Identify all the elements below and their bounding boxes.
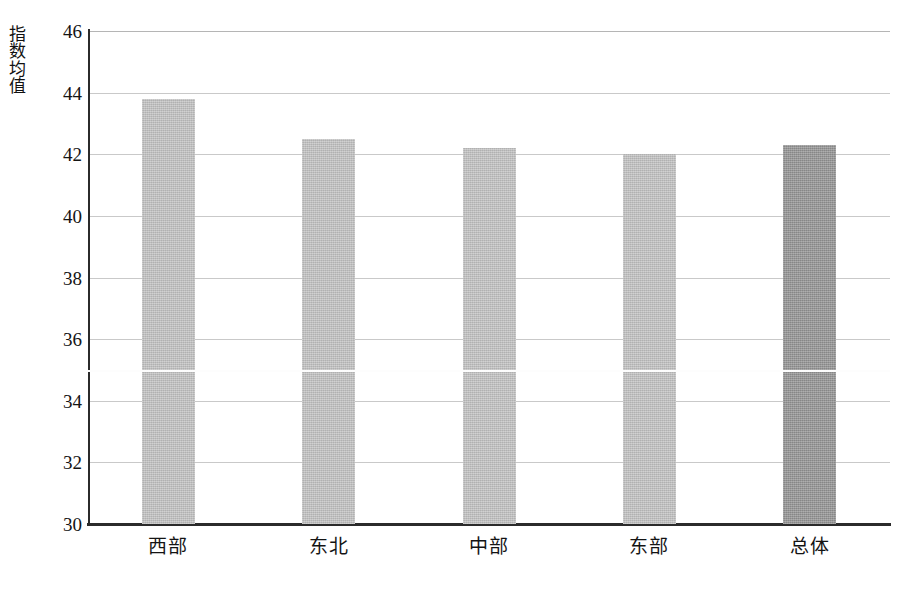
y-tick-label-30: 30 [36,515,82,534]
x-tick-label-东部: 东部 [569,534,729,560]
x-tick-label-中部: 中部 [409,534,569,560]
y-tick-label-36: 36 [36,330,82,349]
bar-东部 [623,154,676,524]
x-tick-label-西部: 西部 [88,534,248,560]
bars-layer [88,31,890,524]
y-tick-label-32: 32 [36,453,82,472]
y-axis-title-char-2: 数 [4,43,30,60]
bar-总体 [783,145,836,524]
bar-西部 [142,99,195,524]
bar-chart: 指 数 均 值 303234363840424446 西部东北中部东部总体 [0,0,905,589]
bar-东北 [302,139,355,524]
y-tick-label-38: 38 [36,268,82,287]
y-axis-title: 指 数 均 值 [4,26,30,95]
y-tick-label-34: 34 [36,391,82,410]
y-axis-title-char-4: 值 [4,78,30,95]
x-tick-label-总体: 总体 [730,534,890,560]
y-axis-title-char-3: 均 [4,61,30,78]
y-axis-tick-labels: 303234363840424446 [30,0,82,589]
y-axis-title-char-1: 指 [4,26,30,43]
bar-中部 [463,148,516,524]
y-tick-label-46: 46 [36,22,82,41]
plot-area [88,31,890,524]
y-tick-label-40: 40 [36,206,82,225]
y-tick-label-42: 42 [36,145,82,164]
y-tick-label-44: 44 [36,83,82,102]
x-tick-label-东北: 东北 [248,534,408,560]
x-axis-tick-labels: 西部东北中部东部总体 [88,534,890,568]
